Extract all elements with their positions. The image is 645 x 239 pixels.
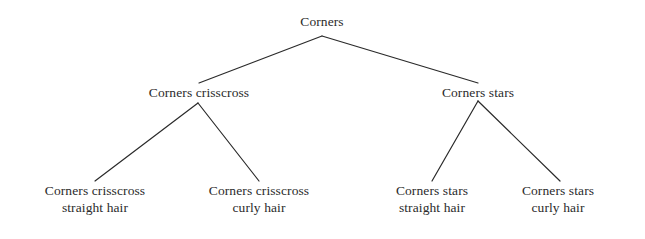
edge-crisscross-to-straight-hair bbox=[95, 103, 198, 181]
node-corners-stars-straight-hair: Corners stars straight hair bbox=[396, 183, 468, 216]
tree-diagram: Corners Corners crisscross Corners stars… bbox=[0, 0, 645, 239]
node-corners-crisscross-straight-hair: Corners crisscross straight hair bbox=[45, 183, 145, 216]
node-label-line-2: curly hair bbox=[522, 200, 594, 217]
node-corners-crisscross-label: Corners crisscross bbox=[149, 85, 249, 102]
node-label-line-1: Corners crisscross bbox=[209, 183, 309, 200]
node-corners-crisscross: Corners crisscross bbox=[149, 85, 249, 102]
edge-root-to-crisscross bbox=[199, 36, 322, 83]
node-root: Corners bbox=[300, 14, 343, 31]
edge-stars-to-curly-hair bbox=[478, 101, 560, 181]
node-label-line-2: straight hair bbox=[396, 200, 468, 217]
edge-crisscross-to-curly-hair bbox=[198, 103, 259, 181]
node-label-line-1: Corners crisscross bbox=[45, 183, 145, 200]
node-label-line-1: Corners stars bbox=[522, 183, 594, 200]
node-label-line-2: curly hair bbox=[209, 200, 309, 217]
edge-stars-to-straight-hair bbox=[432, 101, 478, 181]
node-label-line-1: Corners stars bbox=[396, 183, 468, 200]
node-corners-stars: Corners stars bbox=[442, 85, 514, 102]
node-corners-crisscross-curly-hair: Corners crisscross curly hair bbox=[209, 183, 309, 216]
node-label-line-2: straight hair bbox=[45, 200, 145, 217]
node-corners-stars-label: Corners stars bbox=[442, 85, 514, 102]
edge-root-to-stars bbox=[322, 36, 478, 83]
node-root-label: Corners bbox=[300, 14, 343, 31]
node-corners-stars-curly-hair: Corners stars curly hair bbox=[522, 183, 594, 216]
